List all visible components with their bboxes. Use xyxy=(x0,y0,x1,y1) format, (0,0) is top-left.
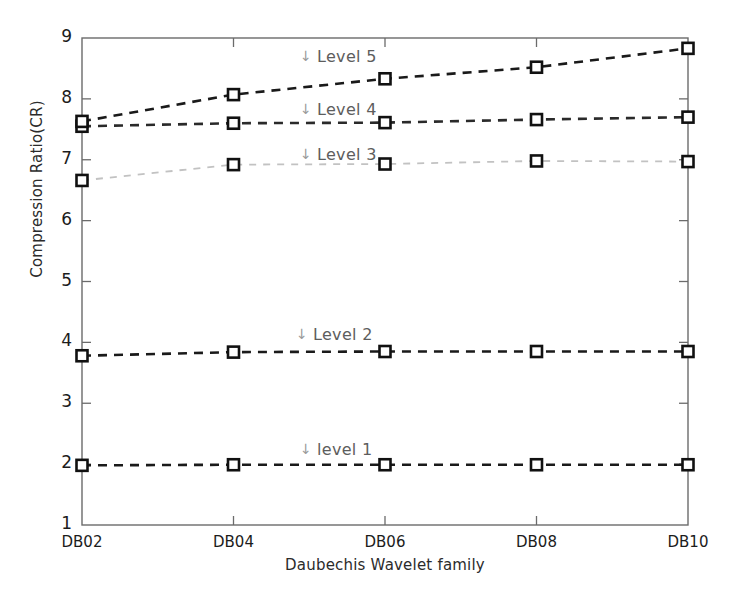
series-annotation: ↓Level 2 xyxy=(296,325,373,344)
data-point-marker xyxy=(531,346,542,357)
data-point-marker xyxy=(683,43,694,54)
down-arrow-icon: ↓ xyxy=(300,146,312,162)
data-point-marker xyxy=(228,159,239,170)
data-point-marker xyxy=(683,156,694,167)
data-point-marker xyxy=(683,112,694,123)
chart-canvas xyxy=(0,0,737,604)
series-annotation: ↓Level 4 xyxy=(300,100,377,119)
down-arrow-icon: ↓ xyxy=(300,441,312,457)
series-annotation-label: Level 4 xyxy=(317,100,377,119)
data-point-marker xyxy=(77,116,88,127)
x-tick-label: DB08 xyxy=(497,533,577,551)
data-point-marker xyxy=(380,346,391,357)
x-axis-ticks xyxy=(234,38,537,525)
down-arrow-icon: ↓ xyxy=(300,101,312,117)
data-point-marker xyxy=(683,459,694,470)
data-point-marker xyxy=(380,459,391,470)
data-point-marker xyxy=(77,175,88,186)
data-point-marker xyxy=(531,114,542,125)
data-point-marker xyxy=(531,155,542,166)
series-annotation-label: Level 2 xyxy=(313,325,373,344)
data-point-marker xyxy=(531,62,542,73)
data-series-group xyxy=(77,43,694,471)
y-tick-label: 7 xyxy=(42,148,72,168)
series-annotation-label: Level 5 xyxy=(317,47,377,66)
series-annotation: ↓level 1 xyxy=(300,440,372,459)
data-point-marker xyxy=(380,117,391,128)
data-point-marker xyxy=(683,346,694,357)
x-tick-label: DB10 xyxy=(648,533,728,551)
x-tick-label: DB04 xyxy=(194,533,274,551)
down-arrow-icon: ↓ xyxy=(296,326,308,342)
y-tick-label: 2 xyxy=(42,452,72,472)
y-tick-label: 4 xyxy=(42,330,72,350)
x-axis-title: Daubechis Wavelet family xyxy=(82,556,688,574)
data-point-marker xyxy=(531,459,542,470)
y-tick-label: 3 xyxy=(42,391,72,411)
data-point-marker xyxy=(228,89,239,100)
data-point-marker xyxy=(228,459,239,470)
y-tick-label: 6 xyxy=(42,209,72,229)
data-point-marker xyxy=(228,347,239,358)
data-point-marker xyxy=(228,118,239,129)
plot-frame xyxy=(82,38,688,525)
series-annotation-label: level 1 xyxy=(317,440,372,459)
y-tick-label: 1 xyxy=(42,513,72,533)
data-point-marker xyxy=(77,350,88,361)
data-point-marker xyxy=(77,460,88,471)
x-tick-label: DB06 xyxy=(345,533,425,551)
data-point-marker xyxy=(380,159,391,170)
series-annotation: ↓Level 3 xyxy=(300,145,377,164)
y-axis-ticks xyxy=(82,99,688,464)
data-point-marker xyxy=(380,73,391,84)
series-annotation-label: Level 3 xyxy=(317,145,377,164)
x-tick-label: DB02 xyxy=(42,533,122,551)
y-tick-label: 9 xyxy=(42,26,72,46)
y-tick-label: 8 xyxy=(42,87,72,107)
series-annotation: ↓Level 5 xyxy=(300,47,377,66)
chart-figure: Compression Ratio(CR) Daubechis Wavelet … xyxy=(0,0,737,604)
down-arrow-icon: ↓ xyxy=(300,48,312,64)
y-tick-label: 5 xyxy=(42,270,72,290)
